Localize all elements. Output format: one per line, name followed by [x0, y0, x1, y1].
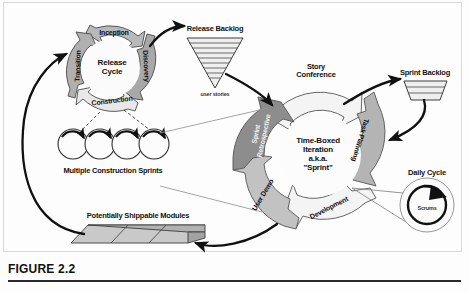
sprint-backlog-title: Sprint Backlog	[400, 69, 450, 77]
sprint-cycle-center-label: Time-Boxed Iteration a.k.a. "Sprint"	[296, 137, 340, 173]
daily-cycle-title: Daily Cycle	[408, 169, 446, 177]
release-backlog-title: Release Backlog	[187, 25, 244, 33]
sprint-backlog-shape	[404, 81, 447, 100]
release-backlog-sublabel: user stories	[201, 91, 230, 97]
shippable-modules-title: Potentially Shippable Modules	[87, 212, 190, 220]
construction-sprints-circles	[58, 129, 169, 159]
figure-container: Inception Discovery Construction Transit…	[0, 0, 469, 292]
release-cycle-center-line2: Cycle	[98, 68, 127, 77]
construction-sprints-title: Multiple Construction Sprints	[63, 167, 162, 175]
sprint-phase-label-story-conference: Story Conference	[296, 63, 335, 80]
release-phase-label-transition: Transition	[74, 50, 83, 82]
sprint-center-line4: "Sprint"	[296, 164, 340, 173]
agile-process-diagram	[0, 0, 469, 258]
release-phase-label-inception: Inception	[99, 29, 128, 37]
daily-cycle-circle	[352, 178, 454, 232]
release-backlog-shape	[187, 38, 243, 88]
caption-divider	[8, 280, 461, 282]
figure-caption-area: FIGURE 2.2	[0, 258, 469, 292]
arrow-sprint-backlog-to-task-planning	[390, 100, 425, 140]
daily-cycle-inner-label: Scrums	[418, 205, 437, 211]
story-conference-line2: Conference	[296, 70, 335, 79]
figure-caption-text: FIGURE 2.2	[8, 262, 75, 276]
release-phase-label-discovery: Discovery	[141, 50, 150, 82]
release-cycle-center-label: Release Cycle	[98, 59, 127, 77]
shippable-modules-blocks	[71, 225, 205, 243]
arrow-user-demo-to-shippable-modules	[196, 224, 277, 246]
construction-to-sprints-dashed	[82, 110, 150, 130]
